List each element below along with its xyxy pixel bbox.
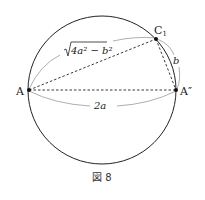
label-sqrt: 4a² − b²	[64, 42, 112, 56]
point-A	[27, 88, 31, 92]
point-C1	[154, 37, 158, 41]
label-A2: A″	[179, 85, 192, 98]
label-b: b	[173, 55, 179, 66]
geometry-diagram: A A″ C1 b 2a 4a² − b² 図 8	[0, 0, 205, 200]
figure-caption: 図 8	[92, 172, 112, 183]
brace-2a-left	[29, 91, 90, 106]
point-A2	[174, 88, 178, 92]
label-2a: 2a	[93, 100, 106, 111]
brace-2a-right	[117, 91, 176, 106]
brace-sqrt-right	[113, 37, 156, 41]
label-C1: C1	[154, 24, 167, 38]
brace-sqrt-left	[29, 55, 60, 89]
label-A: A	[15, 85, 25, 98]
svg-text:4a² − b²: 4a² − b²	[70, 45, 112, 56]
